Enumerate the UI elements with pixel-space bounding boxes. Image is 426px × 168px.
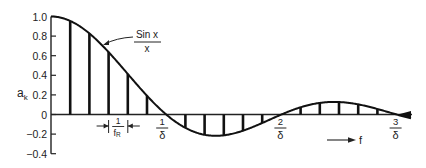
curve-label-leader (105, 37, 133, 44)
y-tick-label: 0.6 (32, 50, 47, 62)
arrowhead-icon (103, 40, 109, 45)
x-marker-numerator: 1 (160, 116, 165, 127)
x-marker-denominator: δ (277, 129, 283, 141)
annotations: Sin xx1fR1δ2δ3δf (97, 29, 411, 146)
arrowhead-right-icon (104, 124, 109, 129)
y-tick-label: 0.2 (32, 89, 47, 101)
y-tick-label: 0.4 (32, 69, 47, 81)
x-marker-numerator: 3 (393, 116, 398, 127)
f-arrow-icon (348, 137, 356, 142)
y-axis-label: ak (17, 86, 29, 102)
x-axis-label: f (359, 134, 363, 146)
y-tick-label: 0.8 (32, 30, 47, 42)
arrowhead-left-icon (128, 124, 133, 129)
spacing-label-denominator: fR (114, 128, 122, 139)
x-marker-denominator: δ (159, 129, 165, 141)
x-marker-numerator: 2 (278, 116, 283, 127)
spacing-label-numerator: 1 (116, 116, 121, 126)
x-marker-denominator: δ (393, 129, 399, 141)
sinc-spectrum-chart: 1.00.80.60.40.20−0.2−0.4ak Sin xx1fR1δ2δ… (0, 0, 426, 168)
sinc-envelope-curve (51, 17, 411, 136)
y-tick-label: 1.0 (32, 11, 47, 23)
y-axis-ticks: 1.00.80.60.40.20−0.2−0.4ak (17, 11, 56, 160)
y-tick-label: 0 (41, 109, 47, 121)
y-tick-label: −0.2 (26, 128, 47, 140)
curve-label-numerator: Sin x (136, 29, 158, 40)
curve-label-denominator: x (145, 43, 150, 54)
y-tick-label: −0.4 (26, 148, 47, 160)
